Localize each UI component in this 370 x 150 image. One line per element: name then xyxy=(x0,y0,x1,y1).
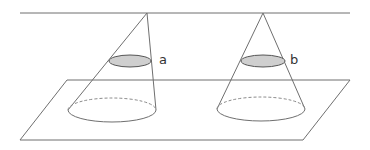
cone-a-base-front xyxy=(68,110,156,122)
cone-a-base-back xyxy=(68,98,156,110)
cone-b-label: b xyxy=(290,53,298,66)
diagram-canvas xyxy=(0,0,370,150)
cone-a xyxy=(68,13,156,122)
ground-plane xyxy=(20,80,350,140)
cone-b-cross-section xyxy=(241,55,285,67)
cone-a-label: a xyxy=(159,53,167,66)
cone-b xyxy=(217,13,305,121)
cone-b-base-front xyxy=(217,109,305,121)
cone-a-cross-section xyxy=(109,55,151,67)
cone-b-base-back xyxy=(217,97,305,109)
